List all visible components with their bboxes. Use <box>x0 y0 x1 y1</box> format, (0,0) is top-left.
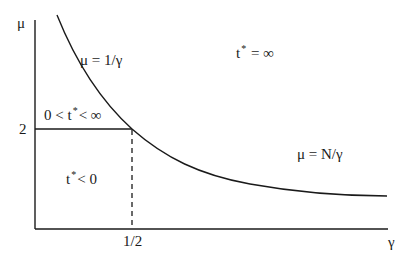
region-bounded-rel: < ∞ <box>79 107 102 123</box>
boundary-curve <box>57 15 387 196</box>
region-negative-star: * <box>71 169 76 180</box>
region-negative-rel: < 0 <box>77 171 97 187</box>
x-axis-label: γ <box>388 235 395 250</box>
lower-curve-label: μ = N/γ <box>297 147 343 162</box>
region-label-bounded: 0 < t*< ∞ <box>44 108 102 123</box>
region-label-infinite: t* = ∞ <box>236 46 274 61</box>
phase-diagram-canvas <box>0 0 412 262</box>
region-infinite-star: * <box>241 43 246 54</box>
x-tick-label-half: 1/2 <box>123 234 142 249</box>
region-infinite-t: t <box>236 45 240 61</box>
region-bounded-pre: 0 < t <box>44 107 72 123</box>
y-axis-label: μ <box>17 16 25 31</box>
upper-curve-label: μ = 1/γ <box>80 53 122 68</box>
region-infinite-rel: = ∞ <box>247 45 274 61</box>
region-label-negative: t*< 0 <box>66 172 97 187</box>
region-negative-t: t <box>66 171 70 187</box>
y-tick-label-2: 2 <box>19 122 27 137</box>
region-bounded-star: * <box>73 105 78 116</box>
